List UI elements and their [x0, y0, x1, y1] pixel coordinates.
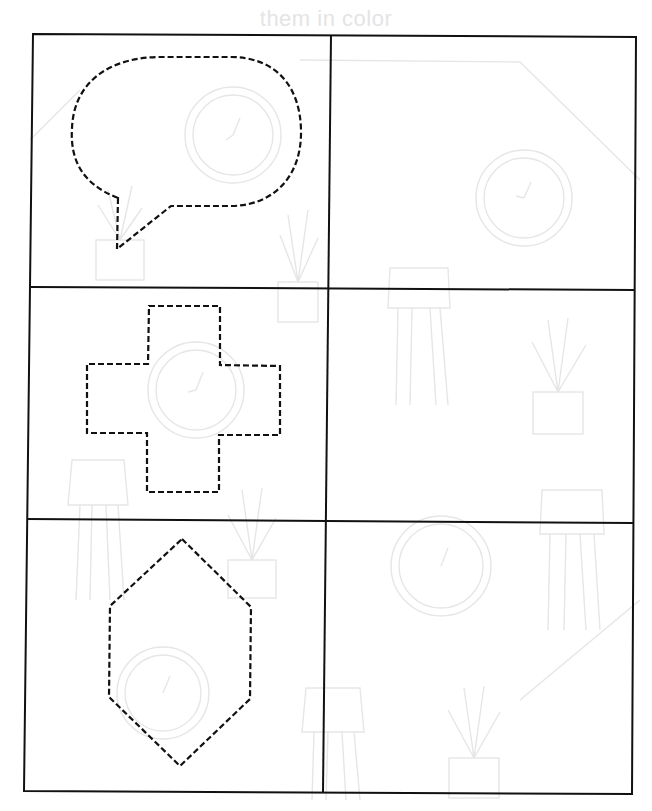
cell-r3-c1: [109, 539, 251, 766]
empty-drawing-area[interactable]: [326, 525, 630, 791]
cell-r2-c2: [330, 292, 630, 520]
worksheet-grid: [0, 0, 652, 811]
speech-bubble-trace-shape[interactable]: [72, 57, 301, 249]
cross-trace-shape[interactable]: [87, 306, 280, 492]
cell-r1-c2: [334, 40, 630, 286]
cell-r3-c2: [326, 525, 630, 791]
grid-row-divider-1: [31, 287, 634, 290]
empty-drawing-area[interactable]: [330, 292, 630, 520]
hexagon-trace-shape[interactable]: [109, 539, 251, 766]
cell-r2-c1: [87, 306, 280, 492]
empty-drawing-area[interactable]: [334, 40, 630, 286]
cell-r1-c1: [72, 57, 301, 249]
